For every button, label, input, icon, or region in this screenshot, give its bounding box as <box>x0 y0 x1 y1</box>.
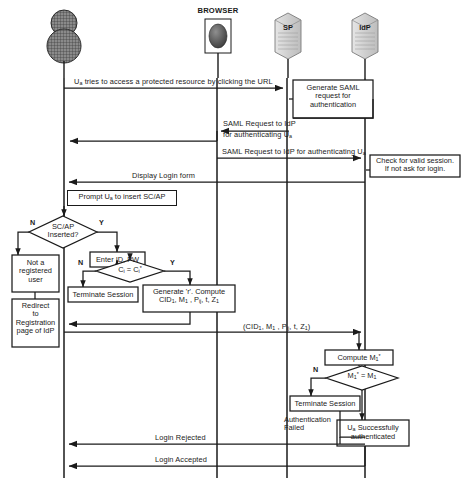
branch-label-m1-no: N <box>313 366 318 374</box>
message-label-m1: Ua tries to access a protected resource … <box>74 78 273 87</box>
message-label-m7: Login Accepted <box>155 456 207 464</box>
box-label-terminate-session-right: Terminate Session <box>291 400 359 408</box>
branch-ci-no <box>83 271 96 287</box>
box-label-terminate-session-left: Terminate Session <box>69 291 137 299</box>
message-label-m2-line1: SAML Request to IdP <box>223 120 296 128</box>
branch-scap-no <box>18 232 29 255</box>
actor-label-sp: SP <box>277 24 299 32</box>
decision-label-scap-inserted: SC/APInserted? <box>41 223 85 240</box>
message-label-m4: Display Login form <box>132 172 195 180</box>
box-label-redirect-idp: RedirecttoRegistrationpage of IdP <box>13 302 58 335</box>
box-label-generate-saml: Generate SAMLrequest forauthentication <box>294 84 372 109</box>
browser-globe-icon <box>205 19 231 78</box>
sequence-diagram-canvas: BROWSER SP IdP Ua tries to access a prot… <box>0 0 463 492</box>
branch-scap-yes <box>97 232 117 252</box>
message-label-m6: Login Rejected <box>155 434 206 442</box>
branch-label-ci-yes: Y <box>170 259 175 267</box>
user-person-icon <box>47 10 81 78</box>
box-label-check-session: Check for valid session.If not ask for l… <box>371 157 459 174</box>
box-label-compute-m1star: Compute M1* <box>326 354 392 363</box>
message-label-m5: (CID1, M1 , Pij, t, Z1) <box>243 323 310 332</box>
decision-label-ci-equals: Ci = Ci* <box>108 266 152 275</box>
branch-label-ci-no: N <box>78 259 83 267</box>
branch-m1-no <box>311 378 326 396</box>
conn-genr-out <box>69 312 190 324</box>
box-prompt-insert-scap: Prompt Ua to insert SC/AP <box>67 190 177 206</box>
branch-ci-yes <box>164 271 190 285</box>
box-label-ua-success: Ua Successfullyauthenticated <box>338 424 408 441</box>
message-label-m2-line2: for authenticating Ua <box>223 131 292 140</box>
diagram-vector-layer <box>0 0 463 492</box>
decision-label-m1-equals: M1* = M1 <box>340 372 384 381</box>
box-label-generate-r: Generate 'r'. ComputeCID1, M1 , Pij, t, … <box>144 288 234 305</box>
actor-label-browser: BROWSER <box>195 7 241 15</box>
message-label-m3: SAML Request to IdP for authenticating U… <box>222 148 366 157</box>
annotation-auth-failed: AuthenticationFailed <box>284 416 340 433</box>
actor-label-idp: IdP <box>354 24 376 32</box>
box-label-not-registered: Not aregistereduser <box>13 259 58 284</box>
box-label-enter-idpw: Enter ID, PW <box>91 256 144 264</box>
branch-label-scap-yes: Y <box>99 219 104 227</box>
branch-label-scap-no: N <box>30 219 35 227</box>
